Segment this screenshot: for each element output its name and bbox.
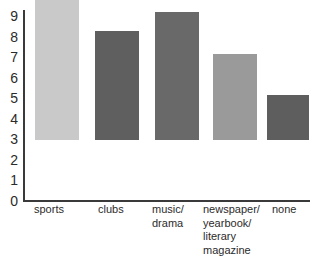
- bar: [95, 31, 139, 140]
- bar: [155, 12, 199, 140]
- x-axis-category-labels: sportsclubsmusic/ dramanewspaper/ yearbo…: [0, 203, 318, 264]
- x-axis-category-label: none: [272, 203, 296, 217]
- bars-layer: [0, 0, 318, 202]
- x-axis-category-label: music/ drama: [152, 203, 184, 230]
- bar-chart: 0123456789 sportsclubsmusic/ dramanewspa…: [0, 0, 318, 264]
- x-axis-category-label: sports: [34, 203, 64, 217]
- x-axis-category-label: newspaper/ yearbook/ literary magazine: [203, 203, 260, 257]
- bar: [267, 95, 309, 140]
- bar: [35, 0, 79, 140]
- x-axis-category-label: clubs: [98, 203, 124, 217]
- bar: [213, 54, 257, 140]
